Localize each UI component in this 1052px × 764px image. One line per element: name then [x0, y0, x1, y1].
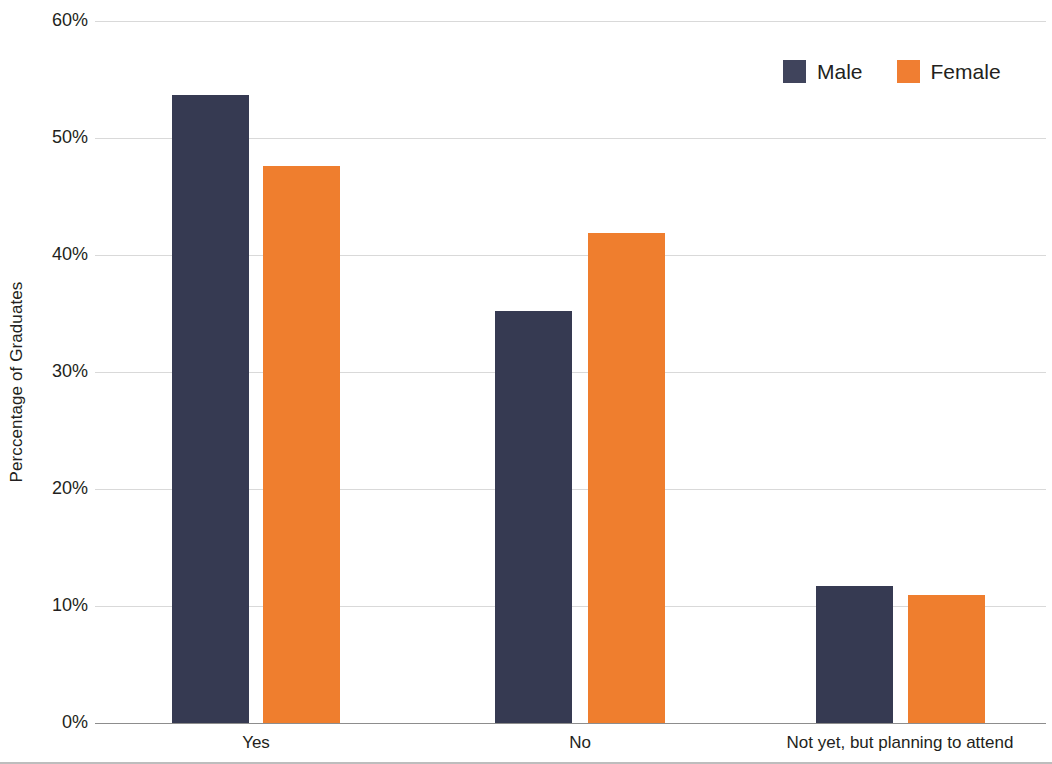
y-tick-label: 10%	[0, 596, 88, 614]
gridline-60	[95, 21, 1046, 22]
bar-female-2	[908, 595, 985, 723]
legend-swatch-icon	[783, 60, 806, 83]
plot-area: 0%10%20%30%40%50%60% YesNoNot yet, but p…	[0, 0, 1052, 764]
y-tick-label: 20%	[0, 479, 88, 497]
y-tick-label: 50%	[0, 128, 88, 146]
bar-male-1	[495, 311, 572, 723]
legend-swatch-icon	[897, 60, 920, 83]
y-tick-label: 40%	[0, 245, 88, 263]
bar-female-1	[588, 233, 665, 723]
bar-male-2	[816, 586, 893, 723]
y-tick-label: 30%	[0, 362, 88, 380]
legend-label: Female	[931, 61, 1001, 82]
legend-item-male[interactable]: Male	[783, 60, 863, 83]
bar-chart: Perccentage of Graduates 0%10%20%30%40%5…	[0, 0, 1052, 764]
legend-label: Male	[817, 61, 863, 82]
y-tick-label: 0%	[0, 713, 88, 731]
y-tick-label: 60%	[0, 11, 88, 29]
bar-male-0	[172, 95, 249, 723]
legend: MaleFemale	[783, 60, 1001, 83]
x-axis-label-2: Not yet, but planning to attend	[700, 734, 1052, 751]
legend-item-female[interactable]: Female	[897, 60, 1001, 83]
bar-female-0	[263, 166, 340, 723]
gridline-0	[95, 723, 1046, 724]
